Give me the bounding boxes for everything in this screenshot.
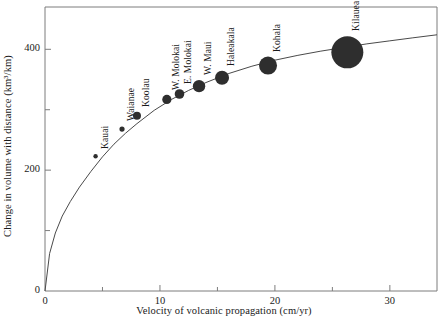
plot-frame	[45, 7, 437, 291]
chart-canvas	[0, 0, 448, 321]
data-point-label: Kilauea	[351, 1, 361, 31]
axis-ticks	[45, 49, 390, 291]
data-point-label: Koolau	[141, 78, 151, 107]
data-point-label: W. Molokai	[171, 44, 181, 90]
y-tick-label: 400	[14, 42, 40, 53]
x-axis-title: Velocity of volcanic propagation (cm/yr)	[0, 305, 448, 316]
data-point-label: W. Maui	[203, 41, 213, 75]
y-tick-label: 200	[14, 163, 40, 174]
data-point-label: Kohala	[272, 24, 282, 52]
data-point-label: Kauai	[100, 126, 110, 149]
y-axis-title: Change in volume with distance (km³/km)	[2, 0, 13, 292]
figure-container: 0102030 0200400 KauaiWaianaeKoolauW. Mol…	[0, 0, 448, 321]
trend-curve	[45, 35, 437, 291]
data-point-label: E. Molokai	[183, 40, 193, 84]
y-tick-label: 0	[14, 284, 40, 295]
data-point-label: Waianae	[126, 88, 136, 121]
data-point-label: Haleakala	[226, 27, 236, 66]
